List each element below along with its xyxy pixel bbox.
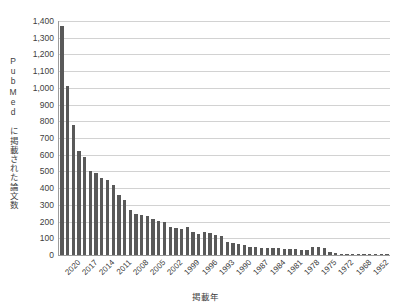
y-tick-label: 900 [40,100,54,109]
x-tick-label: 1990 [234,258,253,277]
x-tick-label: 1968 [354,258,373,277]
bar [186,227,189,255]
bar [134,214,137,255]
bar [72,125,75,255]
bar [169,227,172,255]
y-axis-tick-labels: 1,4001,3001,2001,1001,000900800700600500… [18,21,54,255]
x-tick-label: 1972 [337,258,356,277]
x-tick-label: 1993 [217,258,236,277]
x-tick-label: 2008 [131,258,150,277]
bar [208,233,211,255]
bar [374,254,377,255]
y-tick-label: 500 [40,167,54,176]
x-tick-label: 1975 [320,258,339,277]
x-tick-label: 1978 [303,258,322,277]
bar [243,245,246,255]
bar [300,250,303,255]
bar [294,249,297,255]
y-tick-label: 0 [49,251,54,260]
bar [260,248,263,255]
bar-chart: PubMed に掲載された論文数 1,4001,3001,2001,1001,0… [0,0,411,307]
x-tick-label: 2014 [97,258,116,277]
bar [362,254,365,255]
bar [340,254,343,255]
x-axis-title: 掲載年 [0,290,411,302]
y-tick-label: 300 [40,200,54,209]
bar [266,248,269,255]
bar [271,248,274,255]
bar [123,200,126,255]
x-tick-label: 2002 [166,258,185,277]
bar [385,254,388,255]
bar [174,228,177,255]
bar [151,219,154,255]
y-tick-label: 600 [40,150,54,159]
bar [345,254,348,255]
bar [197,234,200,255]
x-tick-label: 2020 [63,258,82,277]
y-tick-label: 700 [40,134,54,143]
y-tick-label: 1,300 [33,33,54,42]
bar [368,254,371,255]
bar [351,254,354,255]
bar [323,248,326,255]
bar [77,151,80,255]
bar [140,215,143,255]
bar [60,26,63,255]
x-tick-label: 1984 [268,258,287,277]
bar [277,248,280,255]
plot-area [58,21,390,255]
y-tick-label: 400 [40,184,54,193]
bar [288,249,291,255]
bar [106,180,109,255]
y-tick-label: 200 [40,217,54,226]
bar [380,254,383,255]
y-tick-label: 1,000 [33,83,54,92]
x-tick-label: 1981 [286,258,305,277]
bar [112,185,115,255]
bar [334,253,337,256]
bar [220,236,223,255]
x-tick-label: 2017 [80,258,99,277]
bar [129,210,132,255]
y-tick-label: 1,200 [33,50,54,59]
x-tick-label: 1999 [183,258,202,277]
bar [328,252,331,255]
bar [283,249,286,255]
bar [146,216,149,255]
bar [157,221,160,255]
x-tick-label: 1952 [371,258,390,277]
bar [89,171,92,255]
bar [248,247,251,255]
bar [117,195,120,255]
x-axis-tick-labels: 2020201720142011200820052002199919961993… [58,256,390,290]
bar [311,247,314,255]
bar [357,254,360,255]
x-tick-label: 2005 [149,258,168,277]
bar [231,243,234,255]
bar [100,178,103,255]
bar-slot [384,21,390,255]
bar-series [59,21,390,255]
bar [191,232,194,255]
bar [254,247,257,255]
bar [226,242,229,255]
x-tick-label: 2011 [115,258,134,277]
bar [163,222,166,255]
y-tick-label: 800 [40,117,54,126]
bar [317,247,320,255]
bar [94,173,97,255]
bar [66,86,69,255]
y-tick-label: 100 [40,234,54,243]
bar [203,232,206,255]
bar [83,157,86,255]
y-tick-label: 1,400 [33,17,54,26]
x-tick-label: 1987 [251,258,270,277]
x-tick-label: 1996 [200,258,219,277]
bar [180,229,183,255]
y-tick-label: 1,100 [33,67,54,76]
bar [305,250,308,255]
bar [237,244,240,255]
bar [214,235,217,255]
